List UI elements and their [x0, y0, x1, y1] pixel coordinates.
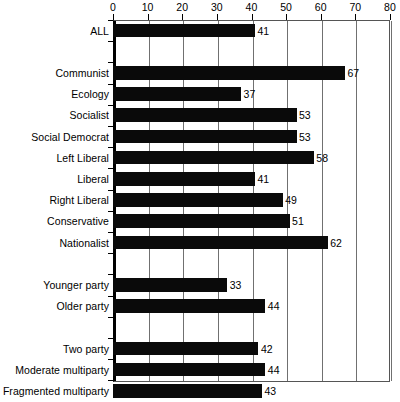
- x-tick-label-60: 60: [315, 1, 327, 13]
- category-label: Socialist: [69, 108, 109, 122]
- bar-value-label: 51: [292, 214, 304, 228]
- bar: [113, 299, 265, 313]
- bar-row: Socialist53: [0, 105, 400, 126]
- category-label: Left Liberal: [56, 151, 109, 165]
- row-tick-mark: [108, 296, 113, 297]
- bar-value-label: 49: [285, 193, 297, 207]
- bar-row: Younger party33: [0, 274, 400, 295]
- x-tick-label-30: 30: [211, 1, 223, 13]
- bar-value-label: 42: [261, 342, 273, 356]
- row-tick-mark: [108, 41, 113, 42]
- category-label: Ecology: [71, 87, 109, 101]
- category-label: Older party: [57, 299, 110, 313]
- row-tick-mark: [108, 84, 113, 85]
- row-tick-mark: [108, 105, 113, 106]
- spacer-row: [0, 41, 400, 62]
- row-tick-mark: [108, 232, 113, 233]
- row-tick-mark: [108, 147, 113, 148]
- x-tick-label-20: 20: [176, 1, 188, 13]
- x-tick-label-10: 10: [142, 1, 154, 13]
- bar: [113, 130, 297, 144]
- bar-rows: ALL41Communist67Ecology37Socialist53Soci…: [0, 20, 400, 382]
- bar-row: Fragmented multiparty43: [0, 380, 400, 401]
- bar: [113, 87, 241, 101]
- bar: [113, 236, 328, 250]
- category-label: Liberal: [77, 172, 109, 186]
- bar-value-label: 53: [299, 108, 311, 122]
- x-tick-label-0: 0: [110, 1, 116, 13]
- category-label: Fragmented multiparty: [3, 384, 109, 398]
- bar-value-label: 41: [257, 172, 269, 186]
- bar-row: ALL41: [0, 20, 400, 41]
- bar: [113, 214, 290, 228]
- row-tick-mark: [108, 274, 113, 275]
- row-tick-mark: [108, 126, 113, 127]
- bar: [113, 384, 262, 398]
- bar-row: Liberal41: [0, 168, 400, 189]
- category-label: Nationalist: [59, 236, 109, 250]
- x-tick-label-40: 40: [246, 1, 258, 13]
- row-tick-mark: [108, 190, 113, 191]
- bar-row: Two party42: [0, 338, 400, 359]
- bar-value-label: 58: [316, 151, 328, 165]
- bar-value-label: 44: [268, 363, 280, 377]
- bar-value-label: 62: [330, 236, 342, 250]
- bar-value-label: 33: [230, 278, 242, 292]
- bar-row: Older party44: [0, 296, 400, 317]
- bar-row: Moderate multiparty44: [0, 359, 400, 380]
- bar: [113, 342, 258, 356]
- category-label: Right Liberal: [49, 193, 109, 207]
- category-label: Younger party: [43, 278, 109, 292]
- bar: [113, 363, 265, 377]
- bar-row: Social Democrat53: [0, 126, 400, 147]
- x-axis-top: 01020304050607080: [0, 0, 400, 22]
- category-label: Communist: [55, 66, 109, 80]
- bar: [113, 66, 345, 80]
- bar-row: Conservative51: [0, 211, 400, 232]
- bar: [113, 108, 297, 122]
- bar-value-label: 53: [299, 130, 311, 144]
- category-label: Conservative: [47, 214, 109, 228]
- row-tick-mark: [108, 20, 113, 21]
- row-tick-mark: [108, 380, 113, 381]
- bar-row: Left Liberal58: [0, 147, 400, 168]
- row-tick-mark: [108, 168, 113, 169]
- spacer-row: [0, 253, 400, 274]
- row-tick-mark: [108, 253, 113, 254]
- category-label: Moderate multiparty: [15, 363, 109, 377]
- x-tick-label-70: 70: [349, 1, 361, 13]
- row-tick-mark: [108, 359, 113, 360]
- bar: [113, 172, 255, 186]
- bar-value-label: 37: [244, 87, 256, 101]
- category-label: ALL: [90, 24, 109, 38]
- bar: [113, 151, 314, 165]
- bar-value-label: 41: [257, 24, 269, 38]
- row-tick-mark: [108, 338, 113, 339]
- row-tick-mark: [108, 62, 113, 63]
- x-tick-label-50: 50: [280, 1, 292, 13]
- spacer-row: [0, 317, 400, 338]
- category-label: Two party: [63, 342, 109, 356]
- bar: [113, 193, 283, 207]
- bar-value-label: 67: [347, 66, 359, 80]
- bar-row: Communist67: [0, 62, 400, 83]
- bar-row: Nationalist62: [0, 232, 400, 253]
- bar: [113, 24, 255, 38]
- bar-row: Right Liberal49: [0, 190, 400, 211]
- bar-value-label: 44: [268, 299, 280, 313]
- category-label: Social Democrat: [31, 130, 109, 144]
- bar-row: Ecology37: [0, 84, 400, 105]
- bar-value-label: 43: [264, 384, 276, 398]
- x-tick-label-80: 80: [384, 1, 396, 13]
- bar: [113, 278, 227, 292]
- row-tick-mark: [108, 317, 113, 318]
- row-tick-mark: [108, 211, 113, 212]
